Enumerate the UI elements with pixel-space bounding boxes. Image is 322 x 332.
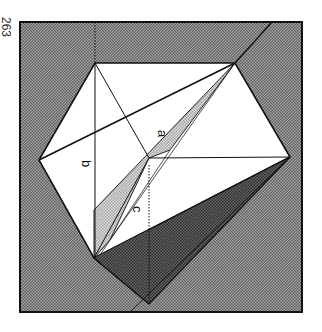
geometric-folding-diagram: a b c: [0, 0, 322, 332]
label-b: b: [79, 160, 94, 167]
label-a: a: [155, 130, 170, 138]
label-c: c: [130, 206, 145, 213]
